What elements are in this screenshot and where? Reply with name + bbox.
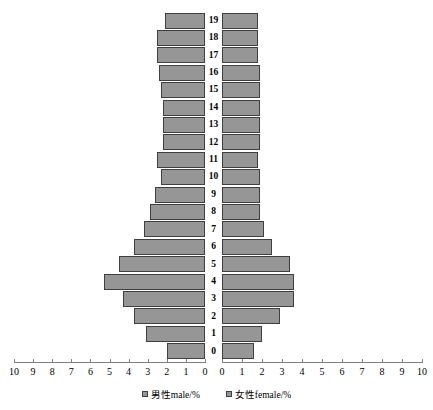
bar-female xyxy=(222,82,260,98)
age-tick-label: 14 xyxy=(205,99,222,116)
pyramid-row: 6 xyxy=(0,238,433,255)
bar-female xyxy=(222,47,258,63)
x-axis-tick xyxy=(90,359,91,363)
female-half xyxy=(222,273,433,290)
bar-male xyxy=(119,256,205,272)
age-tick-label: 16 xyxy=(205,64,222,81)
bar-male xyxy=(104,274,205,290)
male-half xyxy=(0,29,205,46)
bar-female xyxy=(222,221,264,237)
female-half xyxy=(222,82,433,99)
bar-male xyxy=(134,308,205,324)
male-half xyxy=(0,134,205,151)
age-tick-label: 15 xyxy=(205,82,222,99)
age-tick-label: 0 xyxy=(205,343,222,360)
bar-female xyxy=(222,169,260,185)
chart-legend: 男性male/% 女性female/% xyxy=(0,387,433,401)
female-half xyxy=(222,116,433,133)
pyramid-row: 14 xyxy=(0,99,433,116)
x-axis-tick-label: 4 xyxy=(291,366,313,378)
female-half xyxy=(222,47,433,64)
female-half xyxy=(222,64,433,81)
bar-male xyxy=(134,239,205,255)
pyramid-row: 15 xyxy=(0,82,433,99)
pyramid-row: 0 xyxy=(0,343,433,360)
pyramid-row: 11 xyxy=(0,151,433,168)
bar-male xyxy=(163,117,205,133)
x-axis-tick-label: 3 xyxy=(271,366,293,378)
male-half xyxy=(0,47,205,64)
age-tick-label: 18 xyxy=(205,29,222,46)
male-half xyxy=(0,169,205,186)
male-half xyxy=(0,203,205,220)
age-tick-label: 11 xyxy=(205,151,222,168)
x-axis-tick xyxy=(14,359,15,363)
plot-area: 012345678910111213141516171819 109876543… xyxy=(0,0,433,410)
female-half xyxy=(222,12,433,29)
bar-male xyxy=(146,326,205,342)
age-tick-label: 10 xyxy=(205,169,222,186)
x-axis-tick-label: 0 xyxy=(211,366,233,378)
pyramid-row: 12 xyxy=(0,134,433,151)
age-tick-label: 13 xyxy=(205,116,222,133)
bar-male xyxy=(167,343,205,359)
x-axis-tick-label: 8 xyxy=(371,366,393,378)
male-half xyxy=(0,325,205,342)
x-axis-tick-label: 10 xyxy=(411,366,433,378)
x-axis-tick xyxy=(222,359,223,363)
bar-male xyxy=(123,291,205,307)
bar-male xyxy=(157,47,205,63)
bar-male xyxy=(157,30,205,46)
bar-female xyxy=(222,239,272,255)
age-tick-label: 9 xyxy=(205,186,222,203)
age-tick-label: 17 xyxy=(205,47,222,64)
bar-male xyxy=(159,65,205,81)
bar-female xyxy=(222,204,260,220)
female-half xyxy=(222,308,433,325)
legend-swatch-male-icon xyxy=(142,391,148,397)
age-tick-label: 6 xyxy=(205,238,222,255)
pyramid-row: 7 xyxy=(0,221,433,238)
male-half xyxy=(0,273,205,290)
x-axis-tick xyxy=(110,359,111,363)
female-half xyxy=(222,221,433,238)
age-tick-label: 3 xyxy=(205,290,222,307)
x-axis-tick xyxy=(402,359,403,363)
population-pyramid-chart: 012345678910111213141516171819 109876543… xyxy=(0,0,433,410)
bar-female xyxy=(222,274,294,290)
bar-male xyxy=(161,169,205,185)
legend-swatch-female-icon xyxy=(226,391,232,397)
age-tick-label: 8 xyxy=(205,203,222,220)
pyramid-row: 8 xyxy=(0,203,433,220)
pyramid-row: 18 xyxy=(0,29,433,46)
age-tick-label: 7 xyxy=(205,221,222,238)
age-tick-label: 1 xyxy=(205,325,222,342)
female-half xyxy=(222,256,433,273)
age-tick-label: 4 xyxy=(205,273,222,290)
male-half xyxy=(0,290,205,307)
female-half xyxy=(222,29,433,46)
female-half xyxy=(222,325,433,342)
female-half xyxy=(222,203,433,220)
bar-female xyxy=(222,326,262,342)
x-axis-tick xyxy=(186,359,187,363)
x-axis-tick xyxy=(242,359,243,363)
male-half xyxy=(0,82,205,99)
bar-female xyxy=(222,100,260,116)
x-axis-tick xyxy=(282,359,283,363)
pyramid-row: 3 xyxy=(0,290,433,307)
male-half xyxy=(0,116,205,133)
x-axis-tick-label: 2 xyxy=(251,366,273,378)
x-axis-tick xyxy=(322,359,323,363)
bar-female xyxy=(222,291,294,307)
bar-female xyxy=(222,134,260,150)
male-half xyxy=(0,99,205,116)
x-axis-tick-label: 5 xyxy=(311,366,333,378)
bar-male xyxy=(161,82,205,98)
female-half xyxy=(222,186,433,203)
pyramid-row: 2 xyxy=(0,308,433,325)
bar-female xyxy=(222,117,260,133)
pyramid-row: 16 xyxy=(0,64,433,81)
bar-female xyxy=(222,308,280,324)
age-tick-label: 2 xyxy=(205,308,222,325)
